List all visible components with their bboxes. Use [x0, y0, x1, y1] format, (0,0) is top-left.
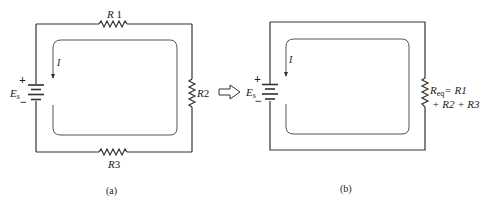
resistor-req-icon: [422, 78, 428, 107]
svg-text:Es: Es: [9, 87, 20, 101]
current-loop-b: [286, 39, 409, 134]
svg-text:R2: R2: [196, 87, 209, 99]
wire-top-b: [270, 22, 425, 78]
current-loop-a: [53, 40, 177, 135]
svg-text:Es: Es: [245, 86, 256, 100]
svg-text:R 1: R 1: [106, 8, 122, 20]
minus-sign-b: −: [255, 94, 262, 108]
current-arrow-icon-b: [284, 72, 288, 77]
battery-icon-b: [262, 85, 278, 100]
battery-icon-a: [28, 85, 44, 100]
resistor-r2-icon: [189, 79, 195, 107]
resistor-r3-icon: [99, 149, 127, 155]
caption-a: (a): [106, 185, 117, 197]
current-arrow-icon-a: [51, 74, 55, 79]
current-label-a: I: [56, 57, 61, 68]
caption-b: (b): [340, 183, 352, 195]
wire-bottom-b: [270, 22, 425, 150]
minus-sign-a: −: [20, 95, 27, 109]
svg-text:R3: R3: [107, 158, 121, 170]
plus-sign-b: +: [254, 72, 261, 86]
plus-sign-a: +: [19, 73, 26, 87]
series-circuit-diagram: R 1 R2 R3 I + − Es (a) I + − Es Req= R1 …: [0, 0, 494, 208]
circuit-a: [28, 21, 195, 155]
resistor-r1-icon: [99, 21, 127, 27]
circuit-b: [262, 22, 428, 150]
hollow-right-arrow-icon: [219, 85, 240, 99]
current-label-b: I: [288, 54, 293, 65]
req-formula-line2: + R2 + R3: [432, 98, 480, 110]
svg-text:Req= R1: Req= R1: [429, 84, 467, 98]
